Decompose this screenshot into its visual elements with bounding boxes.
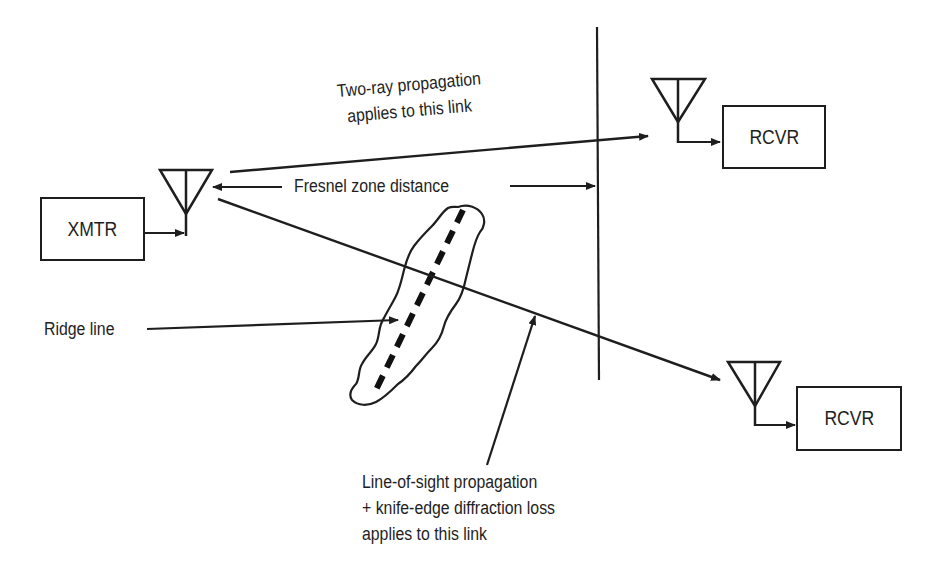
los-label-line1: Line-of-sight propagation — [362, 471, 555, 493]
transmitter-label: XMTR — [68, 218, 118, 241]
ridge-label: Ridge line — [44, 318, 114, 340]
receiver-top-box: RCVR — [722, 105, 826, 169]
receiver-bottom-box: RCVR — [796, 386, 902, 451]
ridge-label-arrow — [147, 320, 398, 329]
fresnel-boundary-line — [597, 27, 599, 380]
los-label-line3: applies to this link — [362, 523, 555, 545]
transmitter-antenna-icon — [160, 170, 212, 236]
two-ray-link-arrow — [230, 136, 648, 172]
receiver-top-label: RCVR — [749, 126, 799, 149]
fresnel-label: Fresnel zone distance — [294, 175, 449, 197]
los-label-arrow — [487, 316, 535, 465]
los-label: Line-of-sight propagation + knife-edge d… — [362, 471, 581, 537]
transmitter-box: XMTR — [40, 197, 145, 261]
los-label-line2: + knife-edge diffraction loss — [362, 497, 555, 519]
receiver-bottom-label: RCVR — [824, 407, 874, 430]
receiver-top-antenna-icon — [652, 79, 720, 143]
receiver-bottom-antenna-icon — [728, 362, 795, 426]
